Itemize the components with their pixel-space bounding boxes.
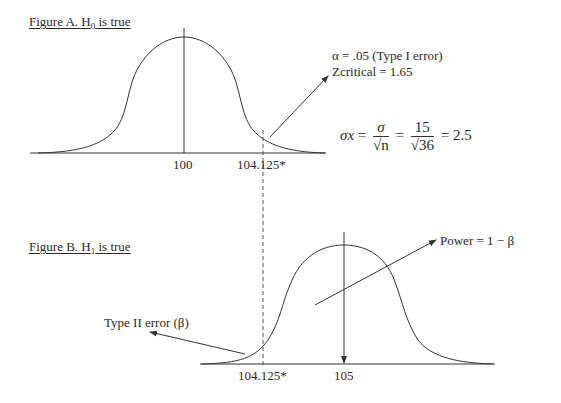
figure-b-critical-label: 104.125* <box>238 369 287 382</box>
figure-b-mean-label: 105 <box>334 369 354 382</box>
figure-b-plot <box>150 232 495 364</box>
fraction-1-denominator: √n <box>373 137 389 153</box>
figure-a-critical-label: 104.125* <box>237 158 286 171</box>
alpha-annotation: α = .05 (Type I error) <box>332 49 443 62</box>
figure-b-title-text: Figure B. H <box>29 239 91 254</box>
standard-error-formula: σx = σ√n = 15√36 = 2.5 <box>340 120 472 153</box>
formula-equals-1: = <box>358 127 366 143</box>
figure-b-title: Figure B. H1 is true <box>29 240 131 256</box>
figure-a-title-suffix: is true <box>95 14 130 29</box>
figure-a-title-text: Figure A. H <box>29 14 91 29</box>
figure-a-h0-curve <box>38 37 325 153</box>
diagram-canvas <box>0 0 561 403</box>
zcritical-annotation: Zcritical = 1.65 <box>332 65 413 78</box>
figure-a-title: Figure A. H0 is true <box>29 15 131 31</box>
fraction-2-numerator: 15 <box>411 120 434 137</box>
formula-fraction-1: σ√n <box>373 120 389 153</box>
figure-a-mean-label: 100 <box>173 158 193 171</box>
power-label: Power = 1 − β <box>440 234 514 247</box>
figure-b-title-suffix: is true <box>95 239 130 254</box>
type1-error-arrow <box>270 76 328 137</box>
formula-lhs: σx <box>340 127 354 143</box>
fraction-2-denominator: √36 <box>411 137 434 153</box>
formula-result: = 2.5 <box>441 127 472 143</box>
type2-error-arrow <box>150 332 245 354</box>
formula-fraction-2: 15√36 <box>411 120 434 153</box>
formula-equals-2: = <box>396 127 404 143</box>
power-arrow <box>315 240 436 305</box>
type2-error-label: Type II error (β) <box>104 316 189 329</box>
figure-b-h1-curve <box>202 245 493 364</box>
fraction-1-numerator: σ <box>373 120 389 137</box>
